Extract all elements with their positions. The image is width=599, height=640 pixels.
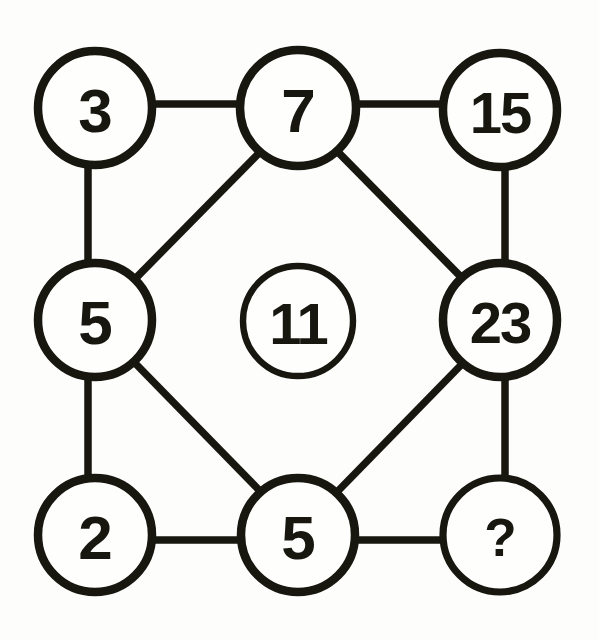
node-top-left[interactable]: 3 [38,51,152,165]
node-top-center[interactable]: 7 [240,50,356,166]
node-middle-left[interactable]: 5 [38,263,152,377]
node-value: 7 [281,76,314,145]
puzzle-canvas: 37155112325? [0,0,599,640]
node-top-right[interactable]: 15 [443,53,557,167]
puzzle-diagram: 37155112325? [0,0,599,640]
node-value: 23 [470,290,531,355]
node-layer: 37155112325? [38,50,557,592]
node-value: 11 [269,291,327,356]
edge-middle-left-to-top-center [132,150,262,282]
node-value: 15 [470,80,531,145]
node-value: ? [484,508,515,567]
edge-bottom-center-to-middle-right [337,362,464,492]
node-value: 2 [78,503,111,572]
node-bottom-center[interactable]: 5 [241,478,355,592]
node-value: 3 [78,76,111,145]
edge-middle-left-to-bottom-center [132,360,261,492]
edge-top-center-to-middle-right [336,150,464,280]
node-center[interactable]: 11 [243,266,353,376]
node-middle-right[interactable]: 23 [443,263,557,377]
node-value: 5 [281,503,314,572]
node-bottom-right[interactable]: ? [443,478,557,592]
node-value: 5 [78,288,111,357]
node-bottom-left[interactable]: 2 [38,478,152,592]
